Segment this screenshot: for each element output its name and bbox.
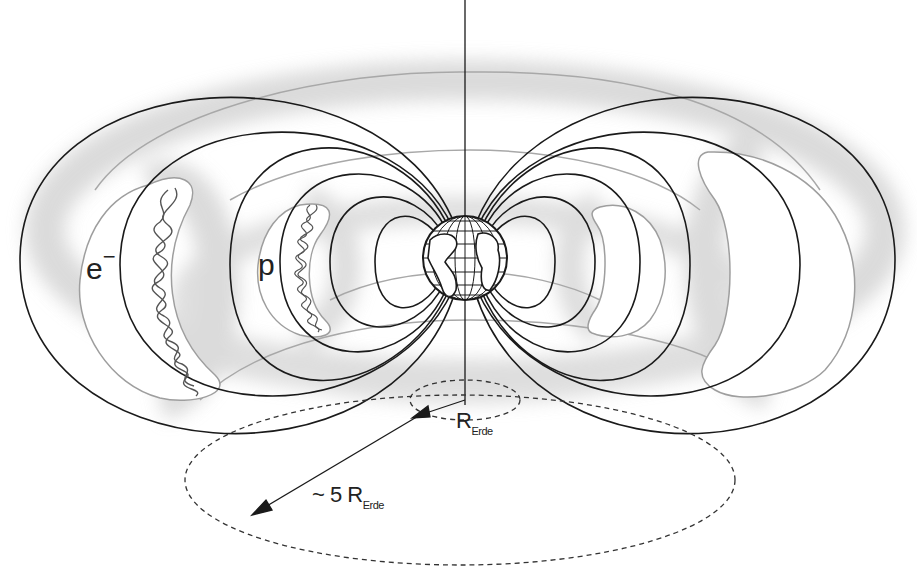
electron-label: e− bbox=[86, 248, 116, 286]
earth-radius-label: RErde bbox=[456, 408, 493, 435]
outer-distance-label: ~ 5 RErde bbox=[312, 482, 384, 509]
proton-label: p bbox=[258, 248, 275, 282]
radiation-belt-diagram bbox=[0, 0, 917, 574]
earth-globe bbox=[423, 216, 507, 300]
